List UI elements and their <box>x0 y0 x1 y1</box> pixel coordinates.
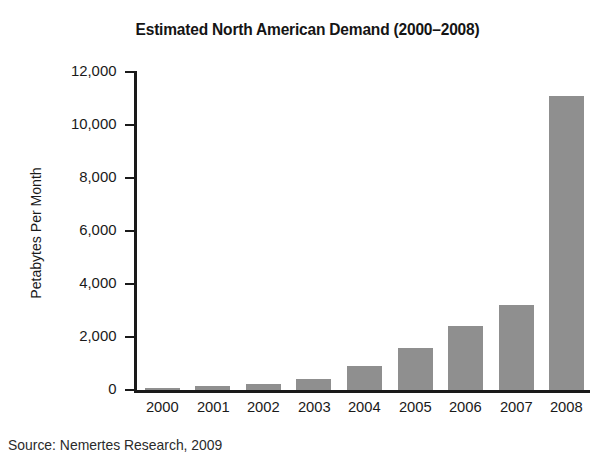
bar <box>296 379 331 390</box>
y-axis-tick <box>125 177 135 179</box>
y-axis-tick-label: 10,000 <box>42 115 117 133</box>
x-axis-line <box>134 390 590 393</box>
bar <box>549 96 584 390</box>
x-axis-tick-label: 2006 <box>442 398 490 416</box>
bar <box>398 348 433 390</box>
source-note: Source: Nemertes Research, 2009 <box>8 437 222 453</box>
x-axis-tick-label: 2000 <box>138 398 186 416</box>
y-axis-tick <box>125 336 135 338</box>
y-axis-tick <box>125 71 135 73</box>
y-axis-tick-label: 2,000 <box>42 327 117 345</box>
y-axis-tick <box>125 124 135 126</box>
bar <box>145 388 180 390</box>
bar <box>448 326 483 390</box>
bars-layer <box>137 72 592 390</box>
y-axis-tick <box>125 283 135 285</box>
y-axis-tick <box>125 230 135 232</box>
y-axis-tick-label: 4,000 <box>42 274 117 292</box>
x-axis-tick-label: 2003 <box>290 398 338 416</box>
y-axis-title: Petabytes Per Month <box>28 136 44 330</box>
x-axis-tick-label: 2007 <box>492 398 540 416</box>
bar <box>246 384 281 390</box>
y-axis-tick-label: 6,000 <box>42 221 117 239</box>
x-axis-tick-label: 2001 <box>189 398 237 416</box>
y-axis-tick-label: 12,000 <box>42 62 117 80</box>
bar <box>499 305 534 390</box>
y-axis-tick-label: 0 <box>42 380 117 398</box>
bar <box>195 386 230 390</box>
x-axis-tick-label: 2005 <box>391 398 439 416</box>
y-axis-tick-label: 8,000 <box>42 168 117 186</box>
bar <box>347 366 382 390</box>
x-axis-tick-label: 2008 <box>543 398 591 416</box>
x-axis-tick-label: 2002 <box>239 398 287 416</box>
x-axis-tick-label: 2004 <box>340 398 388 416</box>
chart-title: Estimated North American Demand (2000–20… <box>18 20 596 39</box>
bar-chart-figure: Estimated North American Demand (2000–20… <box>0 0 615 467</box>
y-axis-tick <box>125 389 135 391</box>
